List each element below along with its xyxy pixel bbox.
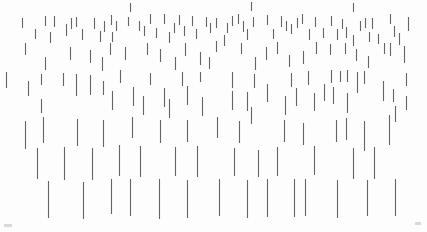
faint-mark bbox=[415, 222, 421, 225]
line-pattern-canvas bbox=[0, 0, 427, 232]
faint-mark bbox=[4, 224, 12, 227]
vertical-lines-pattern bbox=[0, 0, 427, 232]
